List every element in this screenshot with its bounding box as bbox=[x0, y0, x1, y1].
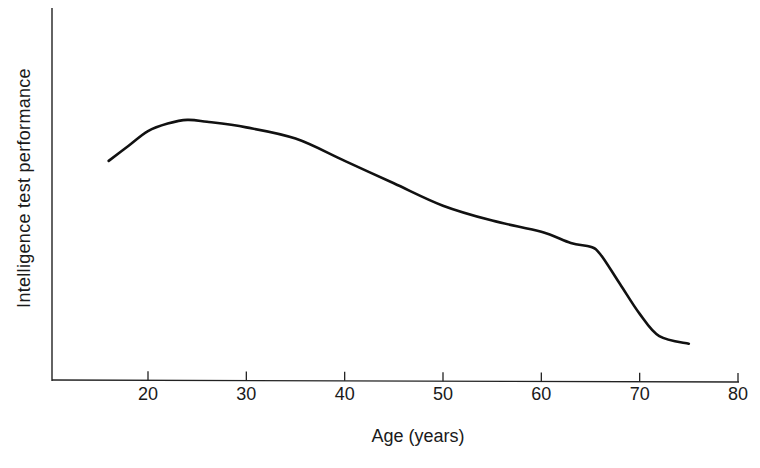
performance-curve bbox=[109, 120, 689, 344]
x-tick-label-20: 20 bbox=[138, 384, 158, 405]
y-axis-label-text: Intelligence test performance bbox=[14, 68, 35, 308]
x-tick-label-80: 80 bbox=[728, 384, 748, 405]
y-axis-label: Intelligence test performance bbox=[4, 8, 44, 368]
x-tick-label-40: 40 bbox=[335, 384, 355, 405]
x-tick-label-50: 50 bbox=[433, 384, 453, 405]
x-axis-label-text: Age (years) bbox=[371, 426, 464, 446]
x-tick-label-70: 70 bbox=[630, 384, 650, 405]
x-tick-label-30: 30 bbox=[236, 384, 256, 405]
x-axis-label: Age (years) bbox=[0, 426, 760, 447]
x-axis bbox=[52, 380, 739, 382]
x-tick-label-60: 60 bbox=[531, 384, 551, 405]
